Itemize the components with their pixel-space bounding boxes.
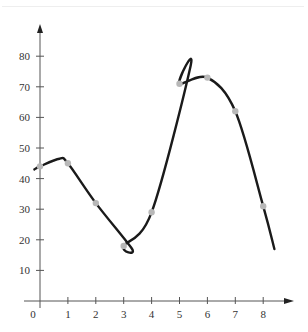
y-axis-arrow-icon [37,24,43,33]
x-axis-arrow-icon [284,298,294,304]
x-tick-label: 3 [121,308,127,320]
y-tick-label: 30 [19,203,31,215]
tick-marks [36,56,263,304]
x-tick-label: 7 [233,308,239,320]
x-tick-label: 5 [177,308,183,320]
tick-labels: 0123456781020304050607080 [19,50,266,320]
x-tick-label: 6 [205,308,211,320]
data-point [204,74,210,80]
data-point [37,163,43,169]
y-tick-label: 70 [19,81,31,93]
data-point [148,209,154,215]
x-tick-label: 8 [260,308,266,320]
data-point [93,200,99,206]
x-tick-label: 4 [149,308,155,320]
y-tick-label: 80 [19,50,31,62]
data-point [260,203,266,209]
y-tick-label: 60 [19,111,31,123]
data-curve [34,59,274,253]
y-tick-label: 10 [19,264,31,276]
y-tick-label: 50 [19,142,31,154]
data-point [176,81,182,87]
y-tick-label: 20 [19,234,31,246]
x-tick-label: 0 [30,308,36,320]
line-chart: 0123456781020304050607080 [0,0,308,332]
data-point [65,160,71,166]
x-tick-label: 2 [93,308,99,320]
x-tick-label: 1 [65,308,71,320]
data-point [121,243,127,249]
data-point [232,108,238,114]
y-tick-label: 40 [19,173,31,185]
data-points [37,74,267,249]
